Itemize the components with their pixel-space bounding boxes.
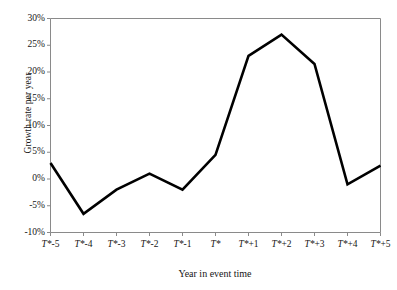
- y-tick-marks: [47, 19, 51, 233]
- chart-figure: Growth rate per year Year in event time …: [0, 0, 397, 290]
- x-tick-label: T*+5: [354, 239, 397, 250]
- x-tick-marks: [51, 233, 381, 237]
- data-series-line: [51, 35, 381, 214]
